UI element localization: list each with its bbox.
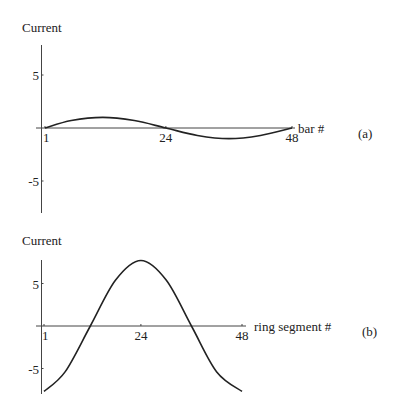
x-tick-label: 48 (236, 328, 249, 343)
figure: Current bar # (a) 124485-5 Current ring … (0, 0, 397, 419)
x-axis-label: ring segment # (254, 319, 332, 334)
y-axis-label: Current (22, 233, 62, 248)
y-tick-label: -5 (28, 362, 39, 377)
x-tick-label: 24 (159, 130, 173, 145)
panel-label: (a) (358, 126, 372, 141)
panel-b: Current ring segment # (b) 124485-5 (22, 233, 377, 394)
panel-label: (b) (362, 324, 377, 339)
y-tick-label: -5 (28, 174, 39, 189)
panel-a: Current bar # (a) 124485-5 (22, 20, 372, 213)
x-tick-label: 1 (42, 328, 49, 343)
x-tick-label: 24 (134, 328, 148, 343)
x-tick-label: 48 (286, 130, 299, 145)
y-tick-label: 5 (33, 277, 40, 292)
x-tick-label: 1 (43, 130, 50, 145)
y-axis-label: Current (22, 20, 62, 35)
y-tick-label: 5 (33, 68, 40, 83)
x-axis-label: bar # (298, 121, 325, 136)
